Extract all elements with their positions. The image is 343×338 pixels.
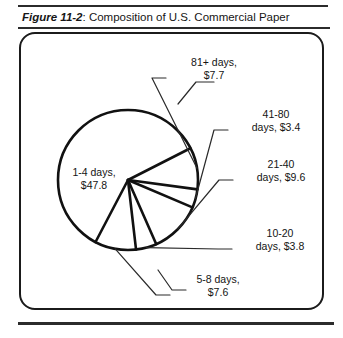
caption-rule-bottom	[18, 27, 330, 29]
figure-rule-bottom	[18, 322, 334, 325]
figure-number: Figure 11-2	[22, 11, 83, 23]
chart-frame	[19, 32, 324, 310]
caption-rule-top	[18, 5, 328, 7]
figure-caption: Figure 11-2: Composition of U.S. Commerc…	[22, 9, 332, 25]
figure-title: Composition of U.S. Commercial Paper	[89, 11, 290, 23]
